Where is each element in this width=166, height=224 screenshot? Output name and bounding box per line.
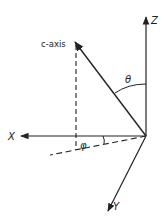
phi-label: φ [80, 140, 87, 151]
theta-arc [115, 84, 146, 93]
c-axis-vector [75, 42, 146, 136]
phi-arc [103, 136, 104, 144]
coordinate-diagram: Z X Y c-axis θ φ [0, 0, 166, 224]
x-axis-label: X [7, 131, 16, 142]
theta-label: θ [125, 74, 131, 85]
c-axis-label: c-axis [41, 39, 66, 49]
y-axis-label: Y [113, 201, 120, 212]
xy-plane-projection-line [50, 136, 146, 155]
z-axis-label: Z [150, 15, 159, 26]
y-axis [108, 136, 146, 211]
